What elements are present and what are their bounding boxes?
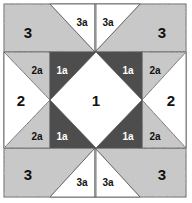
label-side-triangle-left-bottom: 2a	[31, 131, 43, 142]
corner-unit-top-left	[4, 4, 95, 52]
side-unit-left	[4, 52, 50, 148]
corner-unit-top-right	[95, 4, 186, 52]
corner-unit-bottom-left	[4, 148, 95, 197]
label-side-left: 2	[17, 92, 25, 109]
quilt-block: 3 3 3 3 3a 3a 3a 3a 2 2 2a 2a 2a 2a 1a 1…	[0, 0, 192, 203]
label-dark-triangle-top-right: 1a	[122, 65, 134, 76]
label-dark-triangle-top-left: 1a	[56, 65, 68, 76]
label-side-triangle-right-top: 2a	[149, 65, 161, 76]
label-corner-triangle-bottom-left: 3a	[76, 177, 88, 188]
label-dark-triangle-bottom-left: 1a	[56, 131, 68, 142]
label-side-triangle-left-top: 2a	[31, 65, 43, 76]
label-corner-triangle-top-right: 3a	[102, 17, 114, 28]
label-side-right: 2	[167, 92, 175, 109]
label-corner-top-right: 3	[158, 24, 166, 41]
label-center: 1	[92, 92, 100, 109]
label-dark-triangle-bottom-right: 1a	[122, 131, 134, 142]
label-side-triangle-right-bottom: 2a	[149, 131, 161, 142]
label-corner-bottom-left: 3	[24, 166, 32, 183]
label-corner-bottom-right: 3	[158, 166, 166, 183]
label-corner-triangle-bottom-right: 3a	[102, 177, 114, 188]
corner-unit-bottom-right	[95, 148, 186, 197]
label-corner-triangle-top-left: 3a	[76, 17, 88, 28]
label-corner-top-left: 3	[24, 24, 32, 41]
